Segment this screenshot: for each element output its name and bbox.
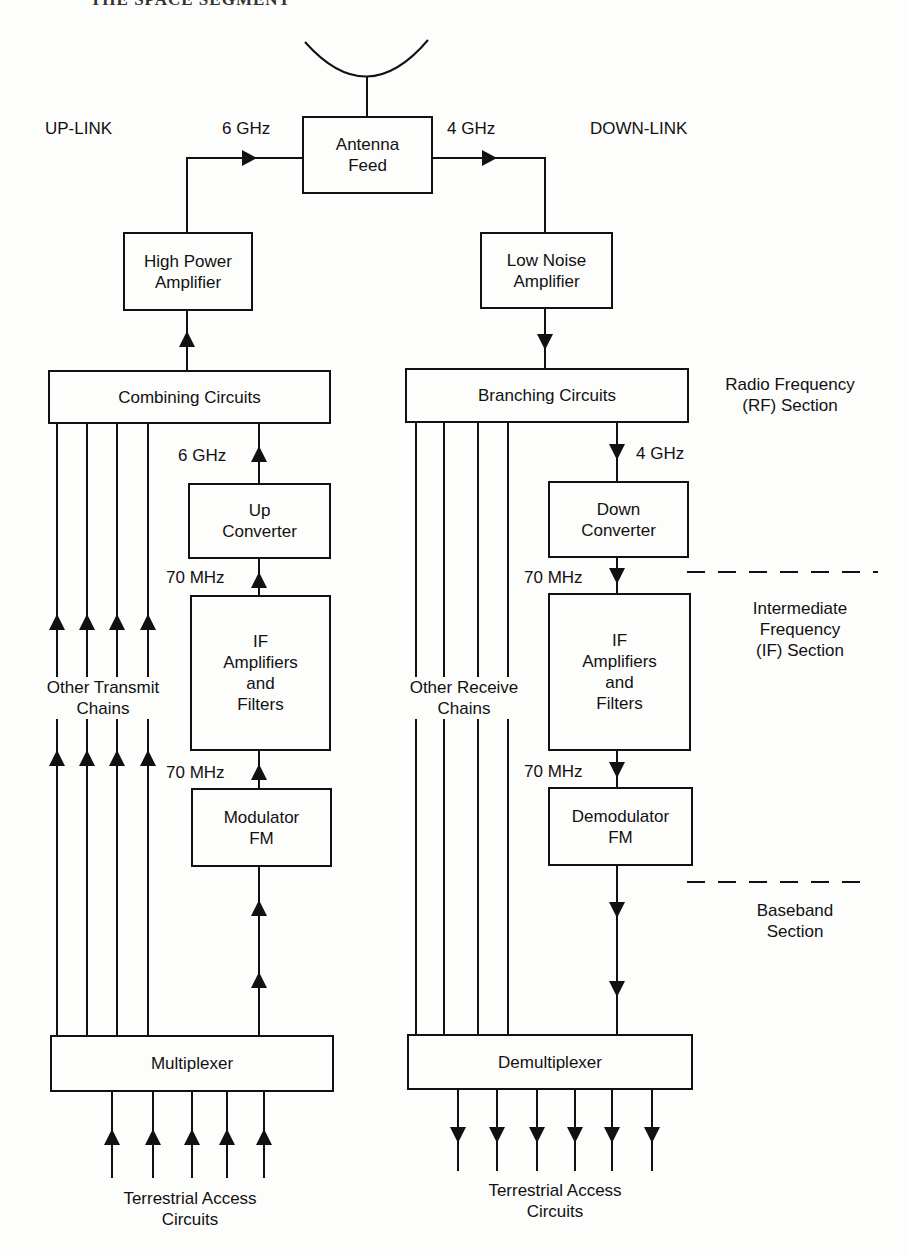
low-noise-amplifier-block: Low Noise Amplifier [480, 232, 613, 309]
block-label: Down Converter [581, 499, 656, 541]
block-label: IF Amplifiers and Filters [223, 631, 298, 715]
block-label: IF Amplifiers and Filters [582, 630, 657, 714]
rf-section-label: Radio Frequency (RF) Section [700, 374, 880, 416]
combining-circuits-block: Combining Circuits [48, 370, 331, 424]
down-converter-block: Down Converter [548, 481, 689, 558]
downlink-rf-frequency: 4 GHz [447, 118, 495, 139]
block-label: Modulator FM [224, 807, 300, 849]
if-section-label: Intermediate Frequency (IF) Section [730, 598, 870, 661]
antenna-dish-icon [305, 40, 428, 77]
other-transmit-chains-label: Other Transmit Chains [28, 677, 178, 719]
other-receive-chains-label: Other Receive Chains [396, 677, 532, 719]
downlink-terrestrial-access-label: Terrestrial Access Circuits [455, 1180, 655, 1222]
uplink-if-frequency-top: 70 MHz [166, 567, 225, 588]
downlink-if-frequency-bottom: 70 MHz [524, 761, 583, 782]
if-amplifiers-uplink-block: IF Amplifiers and Filters [190, 595, 331, 751]
downlink-label: DOWN-LINK [590, 118, 687, 139]
uplink-if-frequency-bottom: 70 MHz [166, 762, 225, 783]
uplink-terrestrial-access-label: Terrestrial Access Circuits [90, 1188, 290, 1230]
high-power-amplifier-block: High Power Amplifier [123, 232, 253, 311]
demultiplexer-block: Demultiplexer [407, 1034, 693, 1090]
uplink-rf-frequency: 6 GHz [222, 118, 270, 139]
baseband-section-label: Baseband Section [740, 900, 850, 942]
block-label: Demultiplexer [498, 1052, 602, 1073]
up-converter-block: Up Converter [188, 483, 331, 559]
multiplexer-block: Multiplexer [50, 1035, 334, 1092]
block-label: Low Noise Amplifier [507, 250, 586, 292]
uplink-label: UP-LINK [45, 118, 112, 139]
block-label: Demodulator FM [572, 806, 669, 848]
block-label: Multiplexer [151, 1053, 233, 1074]
block-label: Antenna Feed [336, 134, 399, 176]
branching-circuits-block: Branching Circuits [405, 368, 689, 423]
downlink-if-frequency-top: 70 MHz [524, 567, 583, 588]
block-label: Combining Circuits [118, 387, 261, 408]
block-label: Up Converter [222, 500, 297, 542]
antenna-feed-block: Antenna Feed [302, 116, 433, 194]
downlink-chain-rf-frequency: 4 GHz [636, 443, 684, 464]
fm-demodulator-block: Demodulator FM [548, 787, 693, 866]
block-label: High Power Amplifier [144, 251, 232, 293]
if-amplifiers-downlink-block: IF Amplifiers and Filters [548, 593, 691, 751]
uplink-chain-rf-frequency: 6 GHz [178, 445, 226, 466]
fm-modulator-block: Modulator FM [191, 788, 332, 867]
block-label: Branching Circuits [478, 385, 616, 406]
